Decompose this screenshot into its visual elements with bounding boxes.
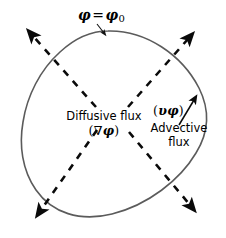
figure-canvas: φ=φ0 Diffusive flux (∇φ) (υφ) Advective … <box>0 0 226 238</box>
boundary-equals-symbol: = <box>91 7 105 23</box>
diffusive-arrow-up-right <box>128 39 188 107</box>
boundary-phi-symbol: φ <box>78 7 91 23</box>
advective-flux-annotation: Advective flux <box>150 122 208 149</box>
nabla-icon: ∇ <box>94 123 103 138</box>
advective-flux-label-line1: Advective <box>150 122 208 135</box>
boundary-condition-label: φ=φ0 <box>78 8 125 24</box>
diffusive-arrow-down-left <box>41 130 97 210</box>
phi-symbol: φ <box>167 103 179 118</box>
paren-close: ) <box>114 123 119 138</box>
boundary-subscript: 0 <box>119 13 125 24</box>
paren-close: ) <box>179 103 184 118</box>
boundary-phi0-symbol: φ <box>105 7 118 23</box>
advective-flux-symbol: (υφ) <box>153 104 184 118</box>
diffusive-flux-symbol: (∇φ) <box>58 124 150 138</box>
velocity-symbol: υ <box>158 103 167 118</box>
phi-symbol: φ <box>103 123 115 138</box>
advective-flux-label-line2: flux <box>150 136 208 149</box>
diffusive-flux-label: Diffusive flux <box>58 110 150 123</box>
diffusive-flux-annotation: Diffusive flux (∇φ) <box>58 110 150 138</box>
